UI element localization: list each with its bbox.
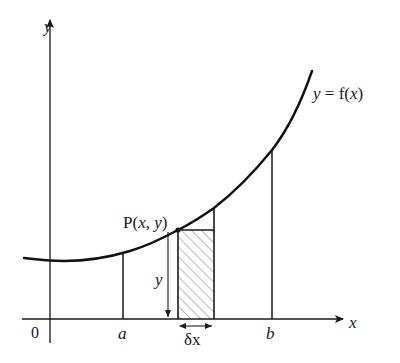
width-label: δx bbox=[184, 330, 201, 349]
b-label: b bbox=[266, 324, 275, 343]
height-label: y bbox=[153, 270, 163, 289]
x-axis-label: x bbox=[348, 313, 357, 332]
a-label: a bbox=[118, 324, 127, 343]
origin-label: 0 bbox=[31, 324, 39, 341]
area-under-curve-diagram: y x 0 a b y δx P(x, y) y = f(x) bbox=[0, 0, 400, 363]
point-p-dot bbox=[175, 227, 180, 232]
curve-label: y = f(x) bbox=[311, 84, 363, 103]
point-p-label: P(x, y) bbox=[123, 213, 167, 232]
hatched-strip bbox=[178, 230, 214, 319]
y-axis-label: y bbox=[42, 17, 52, 36]
